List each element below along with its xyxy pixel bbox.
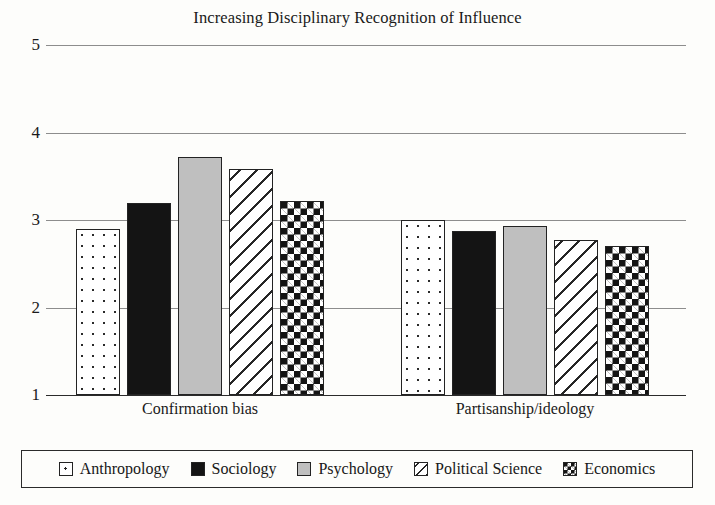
legend-swatch-icon-solid-black (191, 462, 205, 476)
legend-swatch-icon-check (563, 462, 577, 476)
legend-label: Political Science (435, 460, 542, 478)
bar-political-science-1 (554, 240, 598, 395)
bars-layer (46, 45, 686, 395)
y-tick-label-3: 3 (12, 210, 40, 230)
bar-political-science-0 (229, 169, 273, 395)
bar-psychology-0 (178, 157, 222, 395)
legend-swatch-icon-dots (59, 462, 73, 476)
legend-item-anthropology[interactable]: Anthropology (59, 460, 170, 478)
bar-sociology-0 (127, 203, 171, 396)
y-tick-label-2: 2 (12, 298, 40, 318)
bar-anthropology-1 (401, 220, 445, 395)
y-tick-label-5: 5 (12, 35, 40, 55)
chart-legend: AnthropologySociologyPsychologyPolitical… (21, 450, 693, 488)
legend-label: Anthropology (80, 460, 170, 478)
legend-item-sociology[interactable]: Sociology (191, 460, 277, 478)
bar-economics-0 (280, 201, 324, 395)
chart-title: Increasing Disciplinary Recognition of I… (0, 8, 715, 28)
bar-chart: Increasing Disciplinary Recognition of I… (0, 0, 715, 505)
bar-economics-1 (605, 246, 649, 395)
category-label-0: Confirmation bias (36, 400, 364, 418)
bar-sociology-1 (452, 231, 496, 395)
legend-item-psychology[interactable]: Psychology (297, 460, 393, 478)
legend-item-economics[interactable]: Economics (563, 460, 655, 478)
legend-item-political-science[interactable]: Political Science (414, 460, 542, 478)
y-tick-label-4: 4 (12, 123, 40, 143)
gridline-1 (46, 395, 686, 396)
category-label-1: Partisanship/ideology (361, 400, 689, 418)
bar-anthropology-0 (76, 229, 120, 395)
legend-swatch-icon-hatch (414, 462, 428, 476)
legend-label: Psychology (318, 460, 393, 478)
legend-label: Sociology (212, 460, 277, 478)
legend-swatch-icon-solid-gray (297, 462, 311, 476)
legend-label: Economics (584, 460, 655, 478)
bar-psychology-1 (503, 226, 547, 395)
